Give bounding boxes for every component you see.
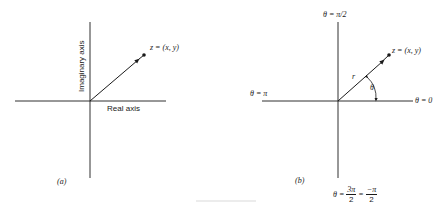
point-z-b [387,53,391,57]
point-z-a [142,53,146,57]
vector-z-a [90,60,138,101]
panel-a-axes [15,22,166,178]
bottom-prefix: θ = [333,191,346,199]
angle-theta-label: θ [370,84,374,92]
panel-a-label: (a) [57,178,66,186]
point-z-label-a: z = (x, y) [150,44,179,52]
fraction-3pi-over-2: 3π 2 [346,185,356,204]
fraction-denominator: 2 [349,195,353,204]
fraction-neg-pi-over-2: −π 2 [366,185,377,204]
real-axis-label: Real axis [107,105,140,113]
theta-pi-label: θ = π [250,90,267,98]
point-z-label-b: z = (x, y) [392,47,421,55]
vector-r-label: r [352,73,355,81]
panel-b-axes [262,22,413,178]
diagram-canvas [0,0,446,210]
fraction-numerator: 3π [346,185,356,195]
bottom-equals: = [356,191,365,199]
theta-three-pi-half-label: θ = 3π 2 = −π 2 [333,185,377,204]
theta-zero-label: θ = 0 [415,97,432,105]
imaginary-axis-label: Imaginary axis [78,40,86,92]
theta-pi-half-label: θ = π/2 [323,11,347,19]
panel-b-label: (b) [295,177,304,185]
fraction-denominator: 2 [369,195,373,204]
fraction-numerator: −π [366,185,377,195]
faint-caption-remnant [196,200,256,202]
